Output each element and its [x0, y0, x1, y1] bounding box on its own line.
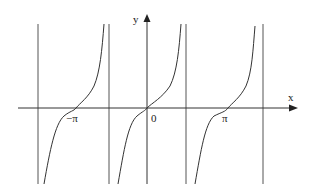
curve-branch-middle — [118, 24, 181, 184]
y-axis-arrow-icon — [144, 14, 151, 22]
tick-label-zero: 0 — [151, 113, 157, 124]
chart-area: y x −π 0 π — [0, 0, 309, 193]
curve-branch-left — [44, 24, 104, 184]
curve-branch-right — [195, 26, 255, 184]
x-axis-arrow-icon — [289, 105, 298, 112]
tick-label-pi: π — [222, 113, 228, 124]
tick-label-neg-pi: −π — [66, 113, 78, 124]
x-axis-label: x — [288, 92, 294, 103]
y-axis-label: y — [133, 14, 139, 25]
plot-svg — [0, 0, 309, 193]
